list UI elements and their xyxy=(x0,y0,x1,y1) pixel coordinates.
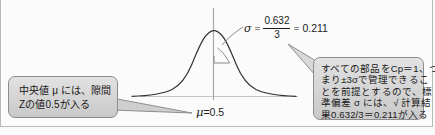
sigma-leader-line xyxy=(222,27,243,45)
result-equals-sign: = xyxy=(293,23,299,34)
callout-right-tail xyxy=(288,44,316,76)
sigma-equals-sign: = xyxy=(255,23,261,34)
fraction-denominator: 3 xyxy=(273,29,281,41)
figure-container: σ = 0.632 3 = 0.211 μ=0.5 中央値 μ には、隙間 Zの… xyxy=(0,0,435,135)
sigma-result-value: 0.211 xyxy=(302,22,328,34)
callout-left: 中央値 μ には、隙間 Zの値0.5が入る xyxy=(8,76,118,118)
callout-left-line-2: Zの値0.5が入る xyxy=(19,98,117,112)
fraction-numerator: 0.632 xyxy=(263,16,290,28)
sigma-fraction: 0.632 3 xyxy=(263,16,290,40)
callout-right-line-2: まり±3σで管理できるこ xyxy=(321,74,423,85)
callout-left-tail xyxy=(112,98,192,113)
sigma-formula: σ = 0.632 3 = 0.211 xyxy=(244,16,328,40)
callout-right-line-1: すべての部品をCp＝1、つ xyxy=(321,63,423,74)
callout-right: すべての部品をCp＝1、つ まり±3σで管理できるこ とを前提とするので、標 準… xyxy=(313,57,424,120)
callout-right-line-5: 果0.632/3＝0.211が入る xyxy=(321,109,423,120)
callout-left-line-1: 中央値 μ には、隙間 xyxy=(19,84,117,98)
callout-right-line-3: とを前提とするので、標 xyxy=(321,86,423,97)
sigma-symbol: σ xyxy=(244,22,252,35)
mu-value: =0.5 xyxy=(203,106,224,118)
callout-right-line-4: 準偏差 σ には、√ 計算結 xyxy=(321,97,423,108)
sigma-arc xyxy=(218,48,230,63)
mu-label: μ=0.5 xyxy=(196,105,224,119)
